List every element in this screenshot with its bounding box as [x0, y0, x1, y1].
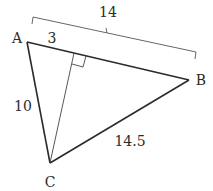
triangle-diagram: A B C 14 3 10 14.5	[0, 0, 213, 191]
side-ab	[27, 42, 189, 80]
vertex-label-c: C	[45, 175, 56, 189]
vertex-label-b: B	[196, 73, 206, 87]
altitude-line	[50, 53, 74, 163]
vertex-label-a: A	[12, 31, 22, 45]
side-bc	[50, 80, 189, 163]
length-label-bc: 14.5	[114, 134, 145, 148]
diagram-svg	[0, 0, 213, 191]
dimension-bracket-ab	[32, 17, 196, 59]
length-label-ac: 10	[14, 99, 32, 113]
length-label-ab: 14	[99, 5, 117, 19]
length-label-a-foot: 3	[48, 31, 57, 45]
right-angle-marker	[72, 56, 86, 67]
